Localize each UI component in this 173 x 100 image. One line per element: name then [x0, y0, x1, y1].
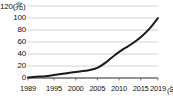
- x-tick-label: 2015: [133, 84, 149, 93]
- data-line-series: [28, 18, 158, 77]
- x-tick-label: 2010: [111, 84, 127, 93]
- x-tick-label: 1995: [46, 84, 62, 93]
- x-axis-unit-label: (年): [167, 84, 173, 95]
- gridlines: [28, 6, 158, 78]
- x-tick-label: 1989: [20, 84, 36, 93]
- x-tick-label: 2019: [150, 84, 166, 93]
- x-tick-label: 2000: [68, 84, 84, 93]
- x-tick-label: 2005: [89, 84, 105, 93]
- chart-container: 120(兆) 020406080100 19891995200020052010…: [0, 0, 173, 100]
